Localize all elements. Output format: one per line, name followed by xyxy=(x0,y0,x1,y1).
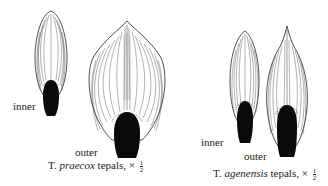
praecox-outer-label: outer xyxy=(75,147,98,158)
scale-fraction: 12 xyxy=(313,168,317,182)
agenensis-outer-label: outer xyxy=(244,151,267,162)
praecox-caption: T. praecox tepals, × 12 xyxy=(48,160,143,174)
praecox-inner-tepal xyxy=(35,11,67,116)
caption-genus: T. xyxy=(48,159,57,171)
praecox-outer-tepal xyxy=(89,21,165,158)
caption-genus: T. xyxy=(213,167,222,179)
praecox-inner-label: inner xyxy=(13,101,36,112)
caption-species: agenensis xyxy=(224,167,267,179)
caption-suffix: tepals, × xyxy=(271,167,308,179)
caption-suffix: tepals, × xyxy=(98,159,135,171)
scale-fraction: 12 xyxy=(140,160,144,174)
agenensis-inner-label: inner xyxy=(201,137,224,148)
agenensis-inner-tepal xyxy=(230,31,259,143)
caption-species: praecox xyxy=(59,159,94,171)
agenensis-outer-tepal xyxy=(267,26,308,157)
agenensis-caption: T. agenensis tepals, × 12 xyxy=(213,168,316,182)
